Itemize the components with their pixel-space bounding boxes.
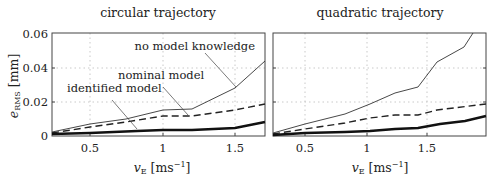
right-x-tick-labels: 0.5 1 1.5 [296,141,436,155]
svg-text:0.02: 0.02 [22,95,48,109]
y-tick-labels: 0 0.02 0.04 0.06 [22,27,48,143]
svg-text:1: 1 [363,141,370,155]
left-x-tick-labels: 0.5 1 1.5 [81,141,244,155]
annotation-no-model-knowledge: no model knowledge [135,39,256,53]
right-plot-title: quadratic trajectory [316,5,444,20]
right-x-axis-label: vE [ms−1] [352,160,409,176]
annotation-identified-model: identified model [67,81,162,95]
left-series-identified [52,122,265,134]
svg-text:0.5: 0.5 [81,141,99,155]
right-plot [273,33,486,136]
y-axis-label: eRMS [mm] [6,54,22,119]
svg-text:0.5: 0.5 [296,141,314,155]
right-grid [273,33,486,136]
figure: circular trajectory quadratic trajectory… [0,0,494,180]
svg-text:0.04: 0.04 [22,61,48,75]
left-plot-title: circular trajectory [100,5,217,20]
annotation-nominal-model: nominal model [118,68,205,82]
svg-text:1.5: 1.5 [226,141,244,155]
svg-text:0: 0 [41,129,48,143]
left-x-axis-label: vE [ms−1] [134,160,191,176]
svg-text:1.5: 1.5 [418,141,436,155]
svg-text:1: 1 [159,141,166,155]
right-axes-frame [273,33,486,136]
svg-text:0.06: 0.06 [22,27,48,41]
left-plot: no model knowledge nominal model identif… [52,33,265,136]
